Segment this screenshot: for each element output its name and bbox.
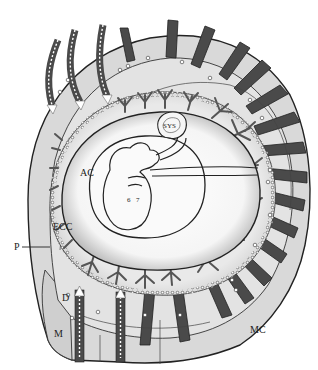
svg-text:7: 7 [136,196,140,204]
label-m: M [54,328,63,339]
placenta-diagram: 6 7 AC ECC SYS P D M MC [0,0,318,370]
label-mc: MC [250,324,266,335]
label-sys: SYS [163,122,176,130]
label-p: P [14,241,20,252]
label-d: D [62,292,69,303]
label-ac: AC [80,167,94,178]
label-ecc: ECC [53,221,73,232]
svg-text:6: 6 [127,196,131,204]
